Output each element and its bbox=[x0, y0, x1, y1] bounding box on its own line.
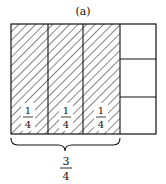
svg-text:4: 4 bbox=[63, 119, 69, 130]
fraction-label-1: 1 4 bbox=[21, 103, 35, 131]
svg-text:4: 4 bbox=[25, 119, 31, 130]
fraction-label-2: 1 4 bbox=[59, 103, 73, 131]
svg-text:4: 4 bbox=[63, 170, 70, 183]
curly-brace bbox=[11, 138, 120, 151]
total-fraction: 3 4 bbox=[60, 155, 72, 183]
svg-text:1: 1 bbox=[98, 105, 104, 116]
svg-text:3: 3 bbox=[63, 155, 70, 168]
diagram-title: (a) bbox=[75, 5, 90, 18]
fraction-diagram: (a) 1 4 1 4 1 4 3 4 bbox=[0, 0, 166, 184]
svg-text:1: 1 bbox=[25, 105, 31, 116]
svg-text:4: 4 bbox=[98, 119, 104, 130]
fraction-label-3: 1 4 bbox=[94, 103, 108, 131]
svg-text:1: 1 bbox=[63, 105, 69, 116]
